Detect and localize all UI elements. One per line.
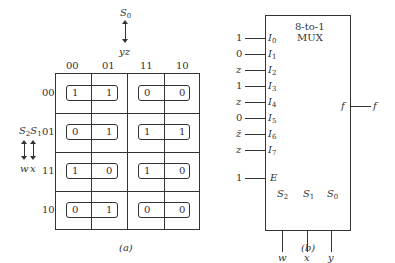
kmap-col-header: 00 [66, 61, 79, 71]
wire [245, 134, 265, 135]
wire [282, 231, 283, 252]
wire [245, 150, 265, 151]
kmap-row-var-w: w [20, 164, 29, 174]
wire [245, 178, 265, 179]
caption-a: (a) [119, 243, 133, 253]
input-value: 1 [236, 81, 242, 91]
input-value: 0 [236, 113, 242, 123]
input-pin-label: I2 [268, 65, 276, 78]
kmap-cell: 1 [106, 205, 112, 215]
wire [351, 106, 371, 107]
select-signal-x: x [304, 253, 310, 263]
arrow-down-icon [122, 39, 128, 43]
select-signal-y: y [328, 253, 334, 263]
enable-pin-label: E [270, 173, 277, 183]
kmap-cell: 0 [179, 166, 185, 176]
grid-line [55, 152, 200, 153]
kmap-cell: 1 [106, 127, 112, 137]
kmap-cell: 0 [144, 88, 150, 98]
grid-line [55, 191, 200, 192]
kmap-cell: 1 [179, 127, 185, 137]
input-value: z [236, 65, 241, 75]
arrow-up-icon [30, 140, 36, 144]
wire [245, 102, 265, 103]
input-pin-label: I6 [268, 129, 276, 142]
select-pin-label: S0 [327, 189, 338, 202]
input-value: z̄ [236, 129, 241, 139]
kmap-cell: 1 [72, 88, 78, 98]
kmap-cell: 0 [179, 205, 185, 215]
kmap-cell: 1 [144, 166, 150, 176]
kmap-cell: 0 [179, 88, 185, 98]
input-pin-label: I5 [268, 113, 276, 126]
caption-b: (b) [301, 243, 315, 253]
wire [245, 70, 265, 71]
kmap-col-header: 11 [140, 61, 153, 71]
wire [245, 86, 265, 87]
input-value: 0 [236, 49, 242, 59]
input-value: z [236, 145, 241, 155]
kmap-column-vars: yz [119, 47, 130, 57]
input-pin-label: I0 [268, 33, 276, 46]
wire [245, 38, 265, 39]
wire [245, 54, 265, 55]
kmap-cell: 1 [72, 166, 78, 176]
wire [331, 231, 332, 252]
kmap-cell: 0 [72, 127, 78, 137]
kmap-cell: 0 [72, 205, 78, 215]
input-value: 1 [236, 33, 242, 43]
select-pin-label: S1 [303, 189, 314, 202]
input-pin-label: I7 [268, 145, 276, 158]
input-pin-label: I4 [268, 97, 276, 110]
enable-value: 1 [236, 173, 242, 183]
kmap-cell: 0 [106, 166, 112, 176]
kmap-cell: 1 [106, 88, 112, 98]
kmap-row-header: 10 [42, 205, 55, 215]
grid-line [55, 113, 200, 114]
arrow-down-icon [21, 156, 27, 160]
kmap-row-header: 11 [42, 166, 55, 176]
input-value: z [236, 97, 241, 107]
output-signal-label: f [373, 101, 377, 111]
mux-title-line2: MUX [297, 33, 323, 43]
arrow-down-icon [30, 156, 36, 160]
kmap-col-header: 01 [102, 61, 115, 71]
kmap-cell: 0 [144, 205, 150, 215]
kmap-cell: 1 [144, 127, 150, 137]
kmap-row-header: 01 [42, 127, 55, 137]
select-signal-w: w [278, 253, 287, 263]
kmap-side-select-label: S2S1 [19, 126, 42, 139]
select-pin-label: S2 [277, 189, 288, 202]
input-pin-label: I1 [268, 49, 276, 62]
kmap-col-header: 10 [176, 61, 189, 71]
wire [245, 118, 265, 119]
mux-title-line1: 8-to-1 [295, 22, 325, 32]
input-pin-label: I3 [268, 81, 276, 94]
kmap-row-header: 00 [42, 88, 55, 98]
output-pin-label: f [341, 101, 345, 111]
arrow-up-icon [21, 140, 27, 144]
kmap-row-var-x: x [30, 164, 36, 174]
arrow-up-icon [122, 20, 128, 24]
